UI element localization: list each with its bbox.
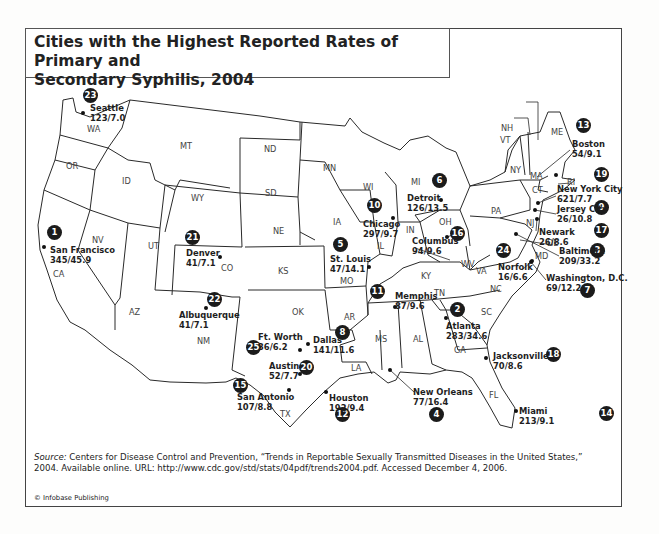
- rank-badge: 23: [83, 88, 98, 103]
- state-label-nv: NV: [92, 235, 104, 245]
- city-name: Chicago: [363, 219, 400, 229]
- city-stats: 192/9.4: [329, 403, 368, 413]
- state-label-sd: SD: [265, 188, 277, 198]
- city-name: Columbus: [412, 236, 458, 246]
- city-location-dot: [81, 111, 85, 115]
- city-stats: 77/16.4: [413, 397, 473, 407]
- rank-badge: 6: [432, 173, 447, 188]
- city-name: St. Louis: [330, 254, 371, 264]
- city-location-dot: [388, 368, 392, 372]
- city-name: Newark: [539, 227, 575, 237]
- city-name: Austin: [269, 361, 299, 371]
- state-label-la: LA: [351, 363, 361, 373]
- copyright-notice: © Infobase Publishing: [34, 494, 109, 502]
- city-label: Norfolk16/6.6: [498, 262, 533, 282]
- city-label: San Antonio107/8.8: [237, 392, 294, 412]
- city-stats: 54/9.1: [572, 149, 605, 159]
- state-label-ut: UT: [148, 241, 159, 251]
- rank-badge: 21: [185, 230, 200, 245]
- city-name: Jersey City: [557, 204, 607, 214]
- state-label-or: OR: [66, 161, 78, 171]
- city-label: Boston54/9.1: [572, 139, 605, 159]
- city-location-dot: [536, 201, 540, 205]
- city-location-dot: [444, 316, 448, 320]
- state-label-mi: MI: [411, 177, 420, 187]
- city-stats: 107/8.8: [237, 402, 294, 412]
- state-label-id: ID: [122, 176, 131, 186]
- city-label: Detroit126/13.5: [407, 193, 448, 213]
- state-label-ma: MA: [530, 171, 543, 181]
- city-name: Jacksonville: [493, 351, 549, 361]
- city-name: New Orleans: [413, 387, 473, 397]
- state-label-ne: NE: [273, 226, 284, 236]
- source-text: Centers for Disease Control and Preventi…: [34, 452, 582, 473]
- city-label: Jersey City26/10.8: [557, 204, 607, 224]
- city-name: Seattle: [90, 103, 125, 113]
- state-label-sc: SC: [481, 307, 492, 317]
- city-stats: 41/7.1: [179, 320, 240, 330]
- city-location-dot: [535, 217, 539, 221]
- state-label-il: IL: [377, 241, 384, 251]
- city-name: Baltimore: [559, 246, 605, 256]
- city-stats: 87/9.6: [395, 301, 438, 311]
- city-name: Houston: [329, 393, 368, 403]
- city-label: St. Louis47/14.1: [330, 254, 371, 274]
- rank-badge: 13: [576, 118, 591, 133]
- state-label-in: IN: [406, 225, 415, 235]
- city-name: Memphis: [395, 291, 438, 301]
- state-label-wv: WV: [461, 259, 475, 269]
- rank-badge: 4: [429, 407, 444, 422]
- city-location-dot: [514, 232, 518, 236]
- rank-badge: 5: [333, 237, 348, 252]
- city-location-dot: [324, 390, 328, 394]
- city-label: Miami213/9.1: [519, 406, 554, 426]
- city-stats: 126/13.5: [407, 203, 448, 213]
- title-box: Cities with the Highest Reported Rates o…: [25, 28, 450, 78]
- state-label-az: AZ: [129, 307, 140, 317]
- city-label: San Francisco345/45.9: [50, 245, 115, 265]
- state-label-nj: NJ: [526, 218, 535, 228]
- state-label-wy: WY: [191, 193, 204, 203]
- state-label-nd: ND: [264, 144, 276, 154]
- state-label-md: MD: [535, 251, 548, 261]
- rank-badge: 1: [47, 225, 62, 240]
- city-stats: 283/34.6: [446, 331, 487, 341]
- rank-badge: 24: [496, 243, 511, 258]
- us-outline: [38, 98, 575, 428]
- source-citation: Source: Centers for Disease Control and …: [34, 452, 594, 473]
- city-label: Columbus94/9.6: [412, 236, 458, 256]
- city-name: Boston: [572, 139, 605, 149]
- city-name: San Francisco: [50, 245, 115, 255]
- state-label-ky: KY: [421, 271, 431, 281]
- city-stats: 47/14.1: [330, 264, 371, 274]
- map-title-line-2: Secondary Syphilis, 2004: [34, 71, 441, 90]
- city-label: Atlanta283/34.6: [446, 321, 487, 341]
- city-stats: 94/9.6: [412, 246, 458, 256]
- state-label-ks: KS: [278, 266, 289, 276]
- state-label-fl: FL: [489, 390, 498, 400]
- city-label: Baltimore209/33.2: [559, 246, 605, 266]
- city-stats: 213/9.1: [519, 416, 554, 426]
- city-stats: 123/7.0: [90, 113, 125, 123]
- city-name: Norfolk: [498, 262, 533, 272]
- city-stats: 16/6.6: [498, 272, 533, 282]
- city-label: Seattle123/7.0: [90, 103, 125, 123]
- city-label: Albuquerque41/7.1: [179, 310, 240, 330]
- state-label-me: ME: [551, 127, 563, 137]
- state-label-ia: IA: [333, 217, 341, 227]
- city-name: Denver: [186, 248, 220, 258]
- rank-badge: 19: [594, 167, 609, 182]
- city-label: Washington, D.C.69/12.2: [546, 273, 628, 293]
- city-location-dot: [554, 173, 558, 177]
- city-name: Albuquerque: [179, 310, 240, 320]
- city-name: New York City: [557, 184, 623, 194]
- city-location-dot: [306, 342, 310, 346]
- city-label: Memphis87/9.6: [395, 291, 438, 311]
- city-label: Jacksonville70/8.6: [493, 351, 549, 371]
- state-label-co: CO: [221, 263, 233, 273]
- rank-badge: 17: [594, 223, 609, 238]
- city-location-dot: [514, 409, 518, 413]
- city-label: Newark26/8.6: [539, 227, 575, 247]
- city-stats: 69/12.2: [546, 283, 628, 293]
- city-location-dot: [42, 245, 46, 249]
